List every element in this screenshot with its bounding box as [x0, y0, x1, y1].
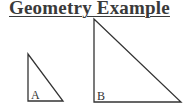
triangle-b-label: B [97, 89, 105, 103]
triangle-a-label: A [31, 88, 40, 102]
triangle-b [94, 19, 181, 102]
triangles-diagram: A B [0, 0, 188, 110]
